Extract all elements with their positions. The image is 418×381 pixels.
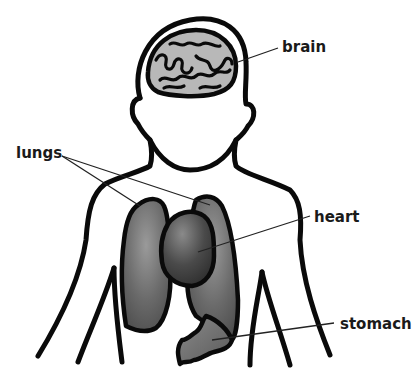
- lungs-leader-left: [62, 156, 140, 206]
- label-stomach: stomach: [340, 315, 412, 333]
- anatomy-diagram: brain lungs heart stomach: [0, 0, 418, 381]
- label-heart: heart: [314, 208, 360, 226]
- lungs-leader-right: [62, 156, 210, 205]
- label-lungs: lungs: [16, 144, 62, 162]
- brain-organ: [148, 30, 236, 96]
- label-brain: brain: [282, 38, 326, 56]
